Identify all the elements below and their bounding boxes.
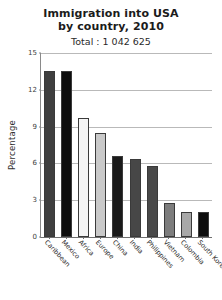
y-axis-label-text: Percentage [7,120,17,170]
bar-caribbean [44,71,55,237]
page-title-line-1: Immigration into USA [0,8,222,21]
immigration-bar-chart: Immigration into USA by country, 2010 To… [0,0,222,300]
bar-india [130,159,141,238]
y-axis-tick-label-15: 15 [28,50,37,57]
y-axis-tick-label-6: 6 [33,160,37,167]
bar-europe [95,133,106,237]
bar-africa [78,118,89,237]
page-title-line-2: by country, 2010 [0,21,222,34]
bar-philippines [147,166,158,237]
y-axis-tick-label-3: 3 [33,197,37,204]
x-axis-label-india: India [128,239,144,256]
bar-mexico [61,71,72,237]
y-axis-label: Percentage [6,53,18,237]
bar-colombia [181,212,192,237]
bar-china [112,156,123,237]
y-axis-tick-label-0: 0 [33,234,37,241]
x-axis-labels: CaribbeanMexicoAfricaEuropeChinaIndiaPhi… [40,239,211,297]
bar-south-korea [198,212,209,237]
chart-title-block: Immigration into USA by country, 2010 To… [0,8,222,48]
chart-subtitle-total: Total : 1 042 625 [0,35,222,48]
bar-vietnam [164,203,175,237]
bar-series [41,53,212,237]
y-axis-tick-label-9: 9 [33,123,37,130]
plot-area: 03691215 [40,53,212,238]
y-axis-tick-label-12: 12 [28,86,37,93]
